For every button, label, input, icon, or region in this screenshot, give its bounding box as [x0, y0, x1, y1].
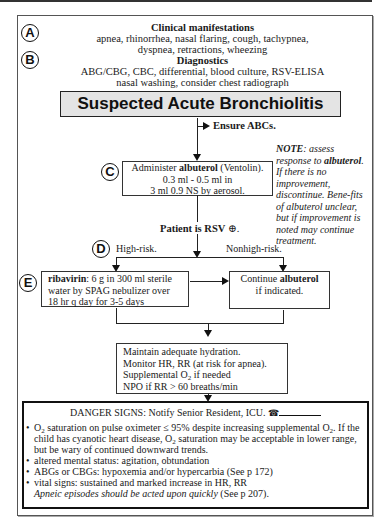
danger-sign-item: vital signs: sustained and marked increa… — [25, 477, 367, 488]
danger-sign-item: altered mental status: agitation, obtund… — [25, 455, 367, 466]
continue-line1: Continue albuterol — [230, 273, 329, 285]
ribavirin-line2: water by SPAG nebulizer over — [48, 285, 188, 297]
albuterol-box: Administer albuterol (Ventolin). 0.3 ml … — [122, 161, 273, 196]
diagnostics-line2: nasal washing, consider chest radiograph — [40, 77, 365, 88]
clinical-manifestations-line1: apnea, rhinorrhea, nasal flaring, cough,… — [40, 33, 365, 44]
danger-signs-title: DANGER SIGNS: Notify Senior Resident, IC… — [24, 407, 367, 419]
step-a-marker: A — [21, 24, 39, 42]
clinical-manifestations-title: Clinical manifestations — [40, 22, 365, 33]
connector-line — [116, 323, 284, 324]
step-e-marker: E — [19, 274, 37, 292]
top-rule — [0, 0, 372, 2]
title-box: Suspected Acute Bronchiolitis — [60, 91, 341, 117]
ensure-abcs-label: Ensure ABCs. — [213, 120, 276, 131]
supportive-care-box: Maintain adequate hydration. Monitor HR,… — [116, 343, 288, 394]
supportive-line3: Supplemental O2 if needed — [123, 369, 287, 381]
danger-sign-item: O2 saturation on pulse oximeter ≤ 95% de… — [25, 422, 367, 455]
clinical-manifestations: Clinical manifestations apnea, rhinorrhe… — [40, 22, 365, 88]
albuterol-line1: Administer albuterol (Ventolin). — [123, 162, 272, 174]
arrow-down-icon — [193, 154, 201, 161]
rsv-positive-label: Patient is RSV ⊕. — [158, 222, 241, 234]
diagnostics-title: Diagnostics — [40, 55, 365, 66]
connector-line — [116, 308, 117, 323]
ribavirin-box: ribavirin: 6 g in 300 ml sterile water b… — [41, 271, 189, 307]
diagnostics-line1: ABG/CBG, CBC, differential, blood cultur… — [40, 66, 365, 77]
connector-line — [197, 118, 198, 154]
high-risk-label: High-risk. — [116, 243, 157, 254]
arrow-down-icon — [204, 330, 212, 337]
danger-sign-item: ABGs or CBGs: hypoxemia and/or hypercarb… — [25, 466, 367, 477]
albuterol-line2: 0.3 ml - 0.5 ml in — [123, 174, 272, 186]
ribavirin-line1: ribavirin: 6 g in 300 ml sterile — [48, 273, 188, 285]
nonhigh-risk-label: Nonhigh-risk. — [226, 243, 282, 254]
step-b-marker: B — [21, 51, 39, 69]
apneic-note: Apneic episodes should be acted upon qui… — [24, 488, 367, 499]
phone-icon: ☎ — [268, 408, 279, 418]
danger-signs-box: DANGER SIGNS: Notify Senior Resident, IC… — [22, 401, 369, 509]
step-d-marker: D — [92, 240, 110, 258]
supportive-line4: NPO if RR > 60 breaths/min — [123, 381, 287, 393]
phone-number-blank — [279, 407, 321, 416]
connector-line — [283, 257, 284, 265]
connector-line — [116, 257, 117, 265]
clinical-manifestations-line2: dyspnea, retractions, wheezing — [40, 44, 365, 55]
connector-line — [116, 257, 284, 258]
arrow-right-icon — [222, 277, 229, 285]
arrow-right-icon — [203, 122, 210, 130]
step-c-marker: C — [101, 163, 119, 181]
connector-line — [190, 281, 222, 282]
connector-line — [283, 310, 284, 323]
supportive-line1: Maintain adequate hydration. — [123, 346, 287, 358]
albuterol-note: NOTE: assess response to albuterol. If t… — [276, 143, 368, 247]
connector-line — [208, 323, 209, 330]
danger-signs-list: O2 saturation on pulse oximeter ≤ 95% de… — [25, 422, 367, 488]
ribavirin-line3: 18 hr q day for 3-5 days — [48, 296, 188, 308]
continue-albuterol-box: Continue albuterol if indicated. — [229, 271, 330, 309]
continue-line2: if indicated. — [230, 285, 329, 297]
supportive-line2: Monitor HR, RR (at risk for apnea). — [123, 358, 287, 370]
